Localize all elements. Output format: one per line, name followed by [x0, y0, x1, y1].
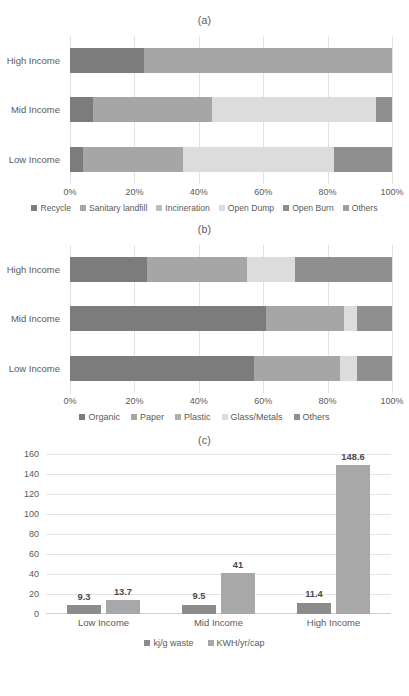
chart-b-x-axis: 0% 20% 40% 60% 80% 100%: [70, 393, 392, 409]
chart-b-seg-glass-metals: [340, 356, 356, 381]
chart-b-title: (b): [0, 223, 409, 235]
legend-label: kj/g waste: [153, 638, 193, 648]
chart-b-seg-paper: [254, 356, 341, 381]
chart-c-ytick-80: 80: [29, 529, 39, 539]
chart-b-seg-organic: [70, 257, 147, 282]
legend-item-open-burn[interactable]: Open Burn: [283, 203, 334, 213]
chart-c-bar-holder: 9.5: [182, 454, 216, 614]
legend-swatch-icon: [144, 640, 150, 646]
chart-c-bar-kwh-low: [106, 600, 140, 614]
chart-c-value-label: 11.4: [305, 589, 323, 599]
legend-item-others[interactable]: Others: [294, 412, 330, 422]
chart-b-seg-paper: [266, 306, 343, 331]
legend-item-kj-per-g-waste[interactable]: kj/g waste: [144, 638, 193, 648]
chart-c-y-axis: 0 20 40 60 80 100 120 140 160: [8, 454, 42, 614]
legend-item-glass-metals[interactable]: Glass/Metals: [222, 412, 283, 422]
chart-panel-a: (a) High Income Mid Income Low Income: [0, 0, 409, 213]
chart-a-bar-mid-income: [70, 97, 392, 122]
chart-b-xtick-60: 60%: [254, 396, 272, 406]
chart-a-seg-open-burn: [334, 147, 392, 172]
legend-label: Incineration: [165, 203, 209, 213]
legend-label: KWH/yr/cap: [217, 638, 265, 648]
legend-item-open-dump[interactable]: Open Dump: [219, 203, 274, 213]
legend-item-kwh-per-yr-per-cap[interactable]: KWH/yr/cap: [208, 638, 265, 648]
chart-c-bar-holder: 41: [221, 454, 255, 614]
chart-c-bar-holder: 13.7: [106, 454, 140, 614]
chart-c-plot-wrap: 0 20 40 60 80 100 120 140 160: [8, 454, 399, 614]
legend-label: Organic: [88, 412, 120, 422]
legend-swatch-icon: [31, 205, 37, 211]
legend-item-incineration[interactable]: Incineration: [156, 203, 209, 213]
chart-a-seg-recycle: [70, 147, 83, 172]
legend-item-recycle[interactable]: Recycle: [31, 203, 71, 213]
chart-c-ytick-160: 160: [24, 449, 39, 459]
chart-b-plot-area: [70, 245, 392, 393]
chart-b-seg-others: [357, 306, 392, 331]
legend-item-organic[interactable]: Organic: [79, 412, 120, 422]
chart-b-bar-high-income: [70, 257, 392, 282]
figure-page: (a) High Income Mid Income Low Income: [0, 0, 409, 696]
chart-c-group-high-income: 11.4 148.6: [276, 454, 391, 614]
chart-a-legend: Recycle Sanitary landfill Incineration O…: [0, 200, 409, 213]
chart-b-xtick-0: 0%: [63, 396, 76, 406]
chart-c-ytick-20: 20: [29, 589, 39, 599]
legend-label: Others: [303, 412, 330, 422]
chart-b-xtick-40: 40%: [190, 396, 208, 406]
chart-b-category-high-income: High Income: [0, 257, 66, 282]
legend-item-paper[interactable]: Paper: [131, 412, 164, 422]
legend-label: Plastic: [184, 412, 211, 422]
legend-item-sanitary-landfill[interactable]: Sanitary landfill: [80, 203, 147, 213]
chart-c-legend: kj/g waste KWH/yr/cap: [0, 632, 409, 648]
chart-c-plot-area: 9.3 13.7 9.5: [46, 454, 391, 614]
chart-b-category-labels: High Income Mid Income Low Income: [0, 245, 66, 393]
chart-a-x-axis: 0% 20% 40% 60% 80% 100%: [70, 184, 392, 200]
legend-label: Others: [352, 203, 378, 213]
chart-b-bar-low-income: [70, 356, 392, 381]
chart-a-category-mid-income: Mid Income: [0, 97, 66, 122]
chart-a-title: (a): [0, 14, 409, 26]
chart-c-value-label: 148.6: [341, 452, 364, 462]
legend-label: Open Burn: [292, 203, 334, 213]
legend-label: Paper: [140, 412, 164, 422]
chart-b-bar-mid-income: [70, 306, 392, 331]
chart-b-seg-paper: [147, 257, 247, 282]
chart-a-seg-open-burn: [376, 97, 392, 122]
chart-a-seg-recycle: [70, 97, 93, 122]
chart-a-seg-sanitary-landfill: [83, 147, 183, 172]
chart-a-bars: [70, 36, 392, 184]
chart-c-value-label: 9.5: [193, 591, 206, 601]
chart-a-xtick-20: 20%: [125, 187, 143, 197]
chart-c-xlabel-high-income: High Income: [276, 614, 391, 632]
legend-swatch-icon: [343, 205, 349, 211]
chart-c-ytick-60: 60: [29, 549, 39, 559]
chart-c-ytick-100: 100: [24, 509, 39, 519]
chart-c-ytick-0: 0: [34, 609, 39, 619]
chart-b-bars: [70, 245, 392, 393]
chart-c-group-low-income: 9.3 13.7: [46, 454, 161, 614]
chart-c-bar-holder: 9.3: [67, 454, 101, 614]
chart-a-xtick-100: 100%: [380, 187, 403, 197]
chart-c-ytick-40: 40: [29, 569, 39, 579]
chart-c-ytick-140: 140: [24, 469, 39, 479]
chart-c-bar-kwh-mid: [221, 573, 255, 614]
legend-item-others[interactable]: Others: [343, 203, 378, 213]
chart-c-x-axis-labels: Low Income Mid Income High Income: [46, 614, 391, 632]
chart-c-bar-groups: 9.3 13.7 9.5: [46, 454, 391, 614]
chart-a-seg-sanitary-landfill: [144, 48, 392, 73]
chart-a-category-low-income: Low Income: [0, 147, 66, 172]
legend-swatch-icon: [175, 414, 181, 420]
chart-a-category-labels: High Income Mid Income Low Income: [0, 36, 66, 184]
chart-b-seg-organic: [70, 306, 266, 331]
chart-c-ytick-120: 120: [24, 489, 39, 499]
chart-c-bar-kj-low: [67, 605, 101, 614]
chart-panel-c: (c) 0 20 40 60 80 100 120 140 160: [0, 422, 409, 648]
chart-a-xtick-40: 40%: [190, 187, 208, 197]
legend-item-plastic[interactable]: Plastic: [175, 412, 211, 422]
chart-c-value-label: 9.3: [78, 592, 91, 602]
chart-c-bar-kj-mid: [182, 605, 216, 614]
chart-a-bar-high-income: [70, 48, 392, 73]
chart-a-xtick-80: 80%: [319, 187, 337, 197]
chart-a-seg-sanitary-landfill: [93, 97, 212, 122]
legend-label: Sanitary landfill: [89, 203, 147, 213]
chart-a-xtick-60: 60%: [254, 187, 272, 197]
